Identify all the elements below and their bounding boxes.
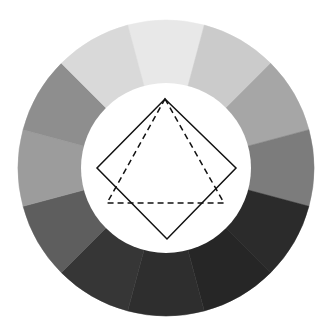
color-wheel-diagram	[0, 0, 330, 336]
color-wheel-svg	[0, 0, 330, 336]
inner-white-circle	[81, 83, 251, 253]
